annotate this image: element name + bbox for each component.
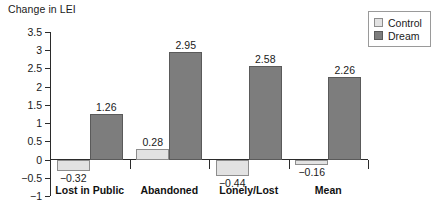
y-axis-tick	[45, 105, 50, 106]
legend-swatch-control-icon	[374, 18, 383, 27]
chart-legend: ControlDream	[368, 11, 431, 47]
bar-control	[57, 160, 90, 172]
y-axis-tick	[45, 32, 50, 33]
y-axis-tick-label: 1	[2, 117, 42, 129]
bar-value-label: 2.26	[315, 64, 374, 76]
legend-item: Control	[374, 16, 425, 29]
bar-value-label: 1.26	[77, 101, 136, 113]
y-axis-tick-label: 3.5	[2, 26, 42, 38]
category-label: Mean	[274, 184, 384, 196]
chart-figure: Change in LEI 3.532.521.510.50−0.5−1 −0.…	[0, 0, 436, 212]
bar-dream	[90, 114, 123, 160]
y-axis-tick	[45, 141, 50, 142]
legend-swatch-dream-icon	[374, 31, 383, 40]
y-axis-tick	[45, 68, 50, 69]
category-separator-tick	[368, 160, 369, 169]
y-axis-tick	[45, 87, 50, 88]
bar-control	[136, 149, 169, 159]
bar-value-label: −0.16	[282, 166, 341, 178]
legend-item-label: Dream	[388, 30, 420, 42]
bar-dream	[169, 52, 202, 160]
y-axis-tick-label: 0	[2, 154, 42, 166]
bar-control	[216, 160, 249, 176]
y-axis-tick	[45, 50, 50, 51]
legend-item-label: Control	[388, 17, 422, 29]
y-axis-tick-label: 1.5	[2, 99, 42, 111]
y-axis-tick-label: 2	[2, 81, 42, 93]
legend-item: Dream	[374, 29, 425, 42]
bar-value-label: 2.95	[156, 39, 215, 51]
bar-value-label: 2.58	[236, 53, 295, 65]
y-axis-tick-label: 2.5	[2, 62, 42, 74]
y-axis-tick	[45, 160, 50, 161]
y-axis-tick	[45, 123, 50, 124]
bar-dream	[249, 66, 282, 160]
category-separator-tick	[209, 160, 210, 169]
y-axis-tick-label: −0.5	[2, 172, 42, 184]
bar-value-label: −0.32	[44, 172, 103, 184]
bar-dream	[328, 77, 361, 159]
y-axis-tick-label: 0.5	[2, 135, 42, 147]
bar-control	[295, 160, 328, 166]
y-axis-tick-label: 3	[2, 44, 42, 56]
y-axis-tick	[45, 196, 50, 197]
category-separator-tick	[130, 160, 131, 169]
